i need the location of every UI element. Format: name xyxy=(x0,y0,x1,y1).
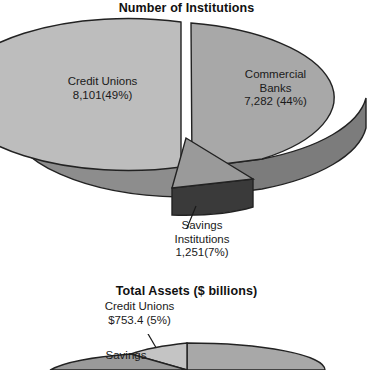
pie-label-savings-institutions-name-2: Institutions xyxy=(147,233,257,247)
pie-chart-assets xyxy=(0,334,373,370)
slice-top-assets-commercial-banks xyxy=(187,343,325,370)
chart-title-institutions: Number of Institutions xyxy=(0,1,373,15)
pie-label-savings-institutions-value: 1,251(7%) xyxy=(147,246,257,260)
pie-slice-credit-unions xyxy=(0,18,181,197)
pie-label-credit-unions-value: 8,101(49%) xyxy=(35,89,170,103)
pie-label-assets-savings: Savings xyxy=(86,349,166,361)
pie-label-credit-unions-name: Credit Unions xyxy=(35,75,170,89)
pie-label-commercial-banks: Commercial Banks 7,282 (44%) xyxy=(218,68,333,109)
pie-label-assets-credit-unions: Credit Unions $753.4 (5%) xyxy=(72,300,207,327)
pie-chart-institutions xyxy=(0,16,373,231)
pie-label-savings-institutions-name-1: Savings xyxy=(147,219,257,233)
chart-title-assets: Total Assets ($ billions) xyxy=(0,284,373,298)
pie-label-credit-unions: Credit Unions 8,101(49%) xyxy=(35,75,170,102)
pie-label-commercial-banks-name-1: Commercial xyxy=(218,68,333,82)
pie-label-commercial-banks-value: 7,282 (44%) xyxy=(218,95,333,109)
dual-pie-chart-figure: Number of Institutions Credit Unions 8 xyxy=(0,0,373,370)
pie-label-commercial-banks-name-2: Banks xyxy=(218,82,333,96)
pie-label-savings-institutions: Savings Institutions 1,251(7%) xyxy=(147,219,257,260)
pie-label-assets-credit-unions-value: $753.4 (5%) xyxy=(72,314,207,328)
pie-label-assets-credit-unions-name: Credit Unions xyxy=(72,300,207,314)
pie-label-assets-savings-name: Savings xyxy=(106,349,147,361)
